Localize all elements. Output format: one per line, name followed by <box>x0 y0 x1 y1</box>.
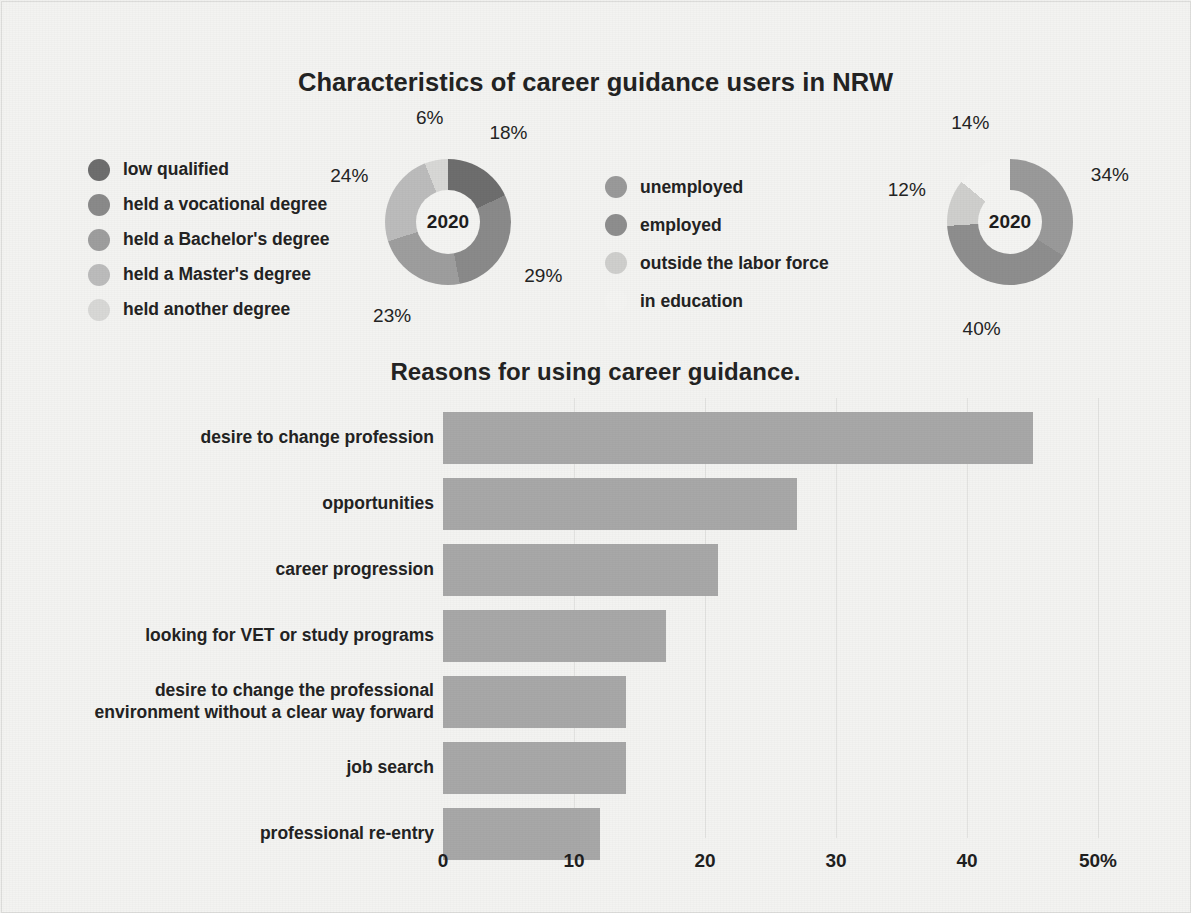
legend-swatch-icon <box>605 214 627 236</box>
bar-row[interactable]: desire to change profession <box>0 412 1191 464</box>
legend-left-item-1[interactable]: held a vocational degree <box>88 187 329 222</box>
donut-right-value-label-3: 14% <box>951 112 989 134</box>
donut-left-legend: low qualifiedheld a vocational degreehel… <box>88 152 329 327</box>
legend-left-label: held another degree <box>123 299 290 320</box>
bar-row[interactable]: desire to change the professional enviro… <box>0 676 1191 728</box>
legend-right-label: in education <box>640 291 743 312</box>
donut-right-center-label: 2020 <box>989 211 1031 233</box>
bar-category-label: desire to change profession <box>201 427 434 449</box>
legend-swatch-icon <box>88 194 110 216</box>
bar[interactable] <box>443 478 797 530</box>
bar-category-label: looking for VET or study programs <box>145 625 434 647</box>
donut-left-center-label: 2020 <box>427 211 469 233</box>
page-title: Characteristics of career guidance users… <box>0 68 1191 97</box>
legend-swatch-icon <box>88 264 110 286</box>
x-axis-tick-label: 0 <box>438 850 449 872</box>
legend-left-item-2[interactable]: held a Bachelor's degree <box>88 222 329 257</box>
bar[interactable] <box>443 412 1033 464</box>
bar[interactable] <box>443 676 626 728</box>
donut-left-value-label-3: 24% <box>330 165 368 187</box>
donut-chart-right: 2020 <box>947 159 1073 285</box>
donut-left-value-label-4: 6% <box>416 107 443 129</box>
x-axis-tick-label: 30 <box>825 850 846 872</box>
donut-chart-left: 2020 <box>385 159 511 285</box>
legend-right-item-2[interactable]: outside the labor force <box>605 244 829 282</box>
bar-category-label: career progression <box>275 559 434 581</box>
legend-left-item-3[interactable]: held a Master's degree <box>88 257 329 292</box>
donut-right-value-label-2: 12% <box>888 179 926 201</box>
legend-left-label: held a Bachelor's degree <box>123 229 329 250</box>
legend-swatch-icon <box>88 299 110 321</box>
legend-swatch-icon <box>605 290 627 312</box>
legend-right-label: employed <box>640 215 722 236</box>
legend-left-item-0[interactable]: low qualified <box>88 152 329 187</box>
bar-category-label: desire to change the professional enviro… <box>95 680 434 724</box>
bar-category-label: opportunities <box>322 493 434 515</box>
legend-left-label: low qualified <box>123 159 229 180</box>
x-axis-tick-label: 40 <box>956 850 977 872</box>
donut-left-value-label-2: 23% <box>373 305 411 327</box>
legend-swatch-icon <box>88 229 110 251</box>
legend-swatch-icon <box>605 252 627 274</box>
legend-left-item-4[interactable]: held another degree <box>88 292 329 327</box>
legend-left-label: held a vocational degree <box>123 194 327 215</box>
bar[interactable] <box>443 742 626 794</box>
bar-row[interactable]: looking for VET or study programs <box>0 610 1191 662</box>
legend-right-item-0[interactable]: unemployed <box>605 168 829 206</box>
donut-left-value-label-0: 18% <box>489 122 527 144</box>
bar-row[interactable]: professional re-entry <box>0 808 1191 860</box>
legend-left-label: held a Master's degree <box>123 264 311 285</box>
legend-right-label: outside the labor force <box>640 253 829 274</box>
bar-category-label: job search <box>346 757 434 779</box>
figure-page: Characteristics of career guidance users… <box>0 0 1191 913</box>
x-axis-tick-label: 10 <box>563 850 584 872</box>
x-axis-tick-label: 20 <box>694 850 715 872</box>
bar-category-label: professional re-entry <box>260 823 434 845</box>
bar-row[interactable]: opportunities <box>0 478 1191 530</box>
legend-right-item-1[interactable]: employed <box>605 206 829 244</box>
donut-right-value-label-1: 40% <box>963 318 1001 340</box>
bar-chart: desire to change professionopportunities… <box>0 398 1191 878</box>
legend-right-label: unemployed <box>640 177 743 198</box>
donut-left-hole: 2020 <box>416 190 480 254</box>
bar-row[interactable]: job search <box>0 742 1191 794</box>
donut-right-hole: 2020 <box>978 190 1042 254</box>
bar[interactable] <box>443 544 718 596</box>
legend-swatch-icon <box>605 176 627 198</box>
bar[interactable] <box>443 610 666 662</box>
legend-right-item-3[interactable]: in education <box>605 282 829 320</box>
bar-chart-title: Reasons for using career guidance. <box>0 358 1191 386</box>
donut-left-value-label-1: 29% <box>524 265 562 287</box>
bar-row[interactable]: career progression <box>0 544 1191 596</box>
donut-right-value-label-0: 34% <box>1091 164 1129 186</box>
donut-right-legend: unemployedemployedoutside the labor forc… <box>605 168 829 320</box>
legend-swatch-icon <box>88 159 110 181</box>
x-axis-tick-label: 50% <box>1079 850 1117 872</box>
